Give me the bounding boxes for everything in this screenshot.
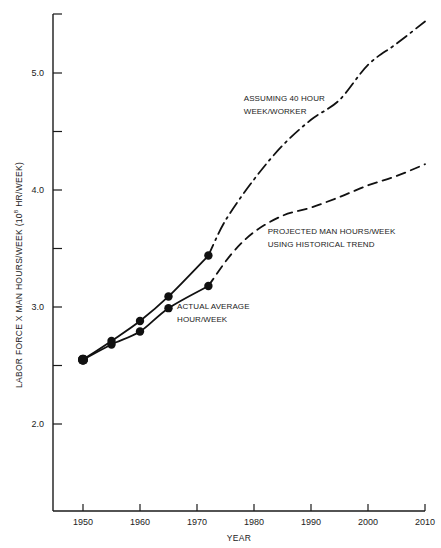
x-axis-title: YEAR — [227, 533, 251, 543]
data-point — [164, 304, 172, 312]
data-point — [164, 292, 172, 300]
annotation-label: ACTUAL AVERAGEHOUR/WEEK — [177, 302, 250, 324]
series-lines — [83, 22, 425, 360]
annotation-label: ASSUMING 40 HOURWEEK/WORKER — [244, 94, 325, 116]
x-tick-label: 1950 — [73, 517, 93, 527]
y-axis-title: LABOR FORCE X MAN HOURS/WEEK (108 HR/WEE… — [13, 162, 24, 388]
axes: 2.03.04.05.0 195019601970198019902000201… — [31, 14, 435, 527]
x-tick-label: 1980 — [244, 517, 264, 527]
x-tick-label: 2010 — [415, 517, 435, 527]
y-tick-label: 2.0 — [31, 419, 44, 429]
y-tick-label: 5.0 — [31, 68, 44, 78]
x-tick-label: 1970 — [187, 517, 207, 527]
data-point — [136, 327, 144, 335]
data-point — [107, 340, 115, 348]
x-tick-label: 1990 — [301, 517, 321, 527]
y-ticks: 2.03.04.05.0 — [31, 68, 62, 429]
y-tick-label: 3.0 — [31, 302, 44, 312]
y-axis-title-main: LABOR FORCE X MAN HOURS/WEEK (10 — [14, 213, 24, 388]
x-ticks: 1950196019701980199020002010 — [73, 504, 435, 527]
series-line-1 — [208, 22, 425, 256]
x-tick-label: 1960 — [130, 517, 150, 527]
data-point — [204, 282, 212, 290]
series-line-3 — [208, 164, 425, 286]
y-axis-title-tail: HR/WEEK) — [14, 162, 24, 210]
data-point — [136, 317, 144, 325]
y-tick-label: 4.0 — [31, 185, 44, 195]
labor-force-chart: 2.03.04.05.0 195019601970198019902000201… — [0, 0, 441, 548]
data-point — [204, 251, 212, 259]
x-tick-label: 2000 — [358, 517, 378, 527]
annotation-label: PROJECTED MAN HOURS/WEEKUSING HISTORICAL… — [268, 227, 396, 249]
data-point — [78, 355, 88, 365]
